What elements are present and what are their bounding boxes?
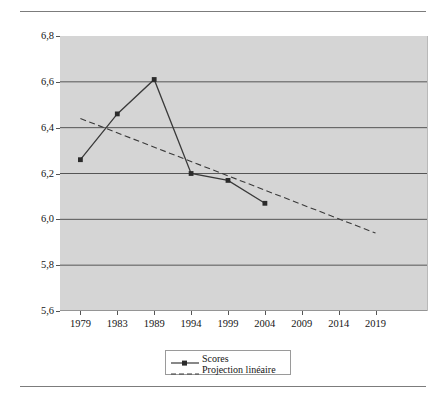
- data-point-marker: [115, 112, 120, 117]
- series-line: [80, 119, 375, 234]
- series-scores: [78, 77, 267, 206]
- series-projection-lineaire: [80, 119, 375, 234]
- data-point-marker: [78, 157, 83, 162]
- x-tick-mark: [228, 311, 229, 315]
- legend-entry-scores: Scores: [170, 354, 286, 364]
- y-tick-label: 6,8: [8, 30, 54, 41]
- y-tick-label: 6,4: [8, 122, 54, 133]
- x-tick-mark: [376, 311, 377, 315]
- x-tick-mark: [154, 311, 155, 315]
- legend-key-dashed: [170, 365, 200, 375]
- chart-figure: 5,65,86,06,26,46,66,8 197919831989199419…: [0, 0, 446, 400]
- x-tick-label: 2019: [354, 318, 398, 329]
- plot-svg: [60, 36, 427, 311]
- x-tick-mark: [191, 311, 192, 315]
- data-point-marker: [226, 178, 231, 183]
- x-tick-mark: [302, 311, 303, 315]
- data-point-marker: [263, 201, 268, 206]
- legend-label-scores: Scores: [200, 354, 229, 364]
- y-tick-label: 5,6: [8, 305, 54, 316]
- x-tick-mark: [339, 311, 340, 315]
- y-tick-label: 6,2: [8, 168, 54, 179]
- x-tick-mark: [117, 311, 118, 315]
- legend-entry-projection: Projection linéaire: [170, 365, 286, 375]
- series-line: [80, 80, 265, 204]
- y-tick-label: 5,8: [8, 259, 54, 270]
- data-point-marker: [189, 171, 194, 176]
- x-tick-mark: [80, 311, 81, 315]
- top-divider-rule: [20, 11, 426, 12]
- chart-legend: Scores Projection linéaire: [165, 350, 291, 375]
- legend-key-solid-square: [170, 354, 200, 364]
- top-caption: [20, 0, 426, 9]
- bottom-divider-rule: [20, 386, 426, 387]
- y-tick-label: 6,6: [8, 76, 54, 87]
- y-tick-mark: [56, 311, 60, 312]
- data-point-marker: [152, 77, 157, 82]
- y-tick-label: 6,0: [8, 213, 54, 224]
- plot-area: [60, 36, 428, 311]
- legend-label-projection-lineaire: Projection linéaire: [200, 365, 276, 375]
- x-tick-mark: [265, 311, 266, 315]
